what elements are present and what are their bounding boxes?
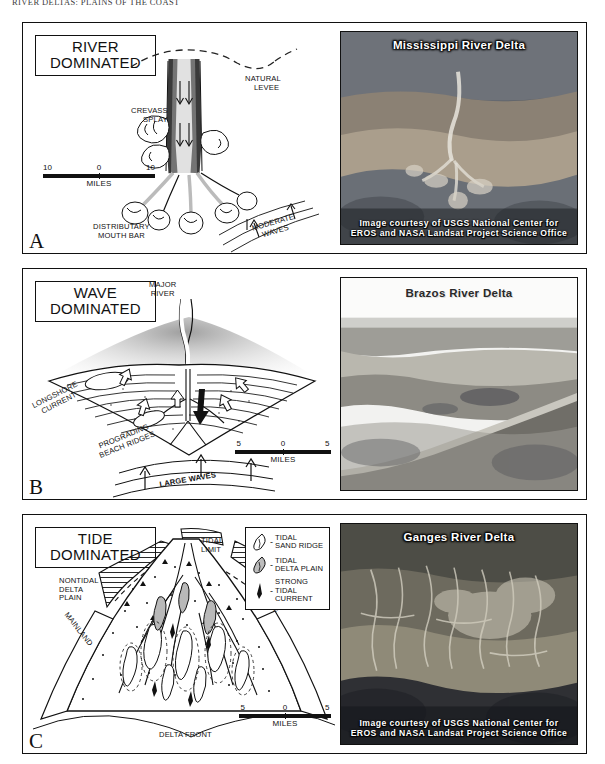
panel-c-legend: - TIDAL SAND RIDGE - TIDAL DELTA PLAIN (245, 527, 330, 610)
photo-credit-ganges: Image courtesy of USGS National Center f… (341, 718, 577, 739)
panel-letter-a: A (29, 231, 44, 252)
scale-center: 0 (283, 703, 287, 712)
legend-dash: - (270, 537, 273, 547)
scale-right: 10 (146, 163, 155, 172)
tidal-delta-plain-icon (251, 555, 269, 575)
scale-center: 0 (281, 439, 285, 448)
legend-item-tidal-delta-plain: - TIDAL DELTA PLAIN (251, 555, 323, 575)
scale-units: MILES (43, 179, 155, 188)
label-distributary-mouth-bar: DISTRIBUTARY MOUTH BAR (93, 223, 150, 240)
panel-letter-c: C (29, 731, 43, 752)
label-natural-levee: NATURAL LEVEE (245, 75, 281, 92)
scalebar-panel-c: 5 0 5 MILES (239, 703, 331, 728)
legend-label-tidal-sand-ridge: TIDAL SAND RIDGE (275, 534, 323, 551)
photo-title-brazos: Brazos River Delta (341, 287, 577, 299)
label-tidal-limit: TIDAL LIMIT (201, 537, 223, 554)
photo-credit-mississippi: Image courtesy of USGS National Center f… (341, 218, 577, 239)
photo-title-mississippi: Mississippi River Delta (341, 39, 577, 51)
label-delta-front: DELTA FRONT (159, 731, 212, 740)
scale-left: 10 (43, 163, 52, 172)
scale-right: 5 (325, 439, 329, 448)
scalebar-panel-a: 10 0 10 MILES (43, 163, 155, 188)
panel-letter-b: B (29, 477, 43, 498)
legend-dash: - (270, 586, 273, 596)
photo-brazos-river-delta: Brazos River Delta (340, 277, 578, 491)
legend-item-tidal-sand-ridge: - TIDAL SAND RIDGE (251, 532, 323, 552)
scale-left: 5 (240, 703, 244, 712)
photo-title-ganges: Ganges River Delta (341, 531, 577, 543)
figure-page: RIVER DELTAS: PLAINS OF THE COAST RIVER … (0, 0, 605, 764)
tidal-sand-ridge-icon (251, 532, 269, 552)
label-crevasse-splay: CREVASS SPLAY (131, 107, 168, 124)
legend-item-strong-tidal-current: - STRONG TIDAL CURRENT (251, 578, 323, 604)
panel-b-wave-dominated: WAVE DOMINATED (22, 268, 587, 500)
photo-mississippi-river-delta: Mississippi River Delta Image courtesy o… (340, 31, 578, 245)
photo-ganges-river-delta: Ganges River Delta Image courtesy of USG… (340, 523, 578, 745)
scalebar-panel-b: 5 0 5 MILES (235, 439, 331, 464)
label-nontidal-delta-plain: NONTIDAL DELTA PLAIN (59, 577, 99, 603)
legend-dash: - (270, 560, 273, 570)
label-major-river: MAJOR RIVER (149, 281, 176, 298)
running-head: RIVER DELTAS: PLAINS OF THE COAST (12, 0, 180, 7)
scale-units: MILES (235, 455, 331, 464)
legend-label-tidal-delta-plain: TIDAL DELTA PLAIN (275, 557, 323, 574)
panel-a-river-dominated: RIVER DOMINATED (22, 22, 587, 254)
scale-center: 0 (97, 163, 101, 172)
panel-c-tide-dominated: TIDE DOMINATED - TIDAL SAND RIDGE (22, 514, 587, 754)
scale-units: MILES (239, 719, 331, 728)
scale-left: 5 (237, 439, 241, 448)
scale-right: 5 (325, 703, 329, 712)
legend-label-strong-tidal-current: STRONG TIDAL CURRENT (275, 578, 313, 604)
strong-tidal-current-icon (251, 581, 269, 601)
